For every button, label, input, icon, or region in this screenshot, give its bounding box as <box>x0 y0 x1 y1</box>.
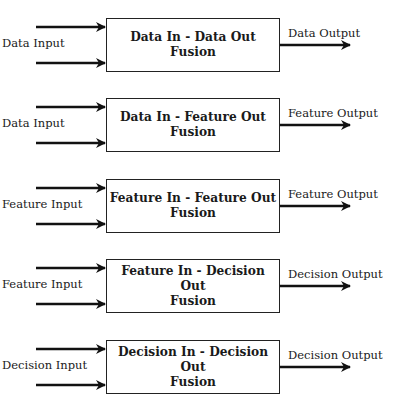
fusion-box: Decision In - Decision Out Fusion <box>106 340 280 394</box>
fusion-title-line1: Feature In - Feature Out <box>110 191 276 206</box>
output-label: Feature Output <box>288 106 378 120</box>
fusion-title-line1: Feature In - Decision Out <box>107 264 279 294</box>
fusion-box: Data In - Data Out Fusion <box>106 18 280 72</box>
fusion-title-line1: Data In - Feature Out <box>120 110 266 125</box>
fusion-title-line2: Fusion <box>170 125 216 140</box>
fusion-box: Feature In - Decision Out Fusion <box>106 259 280 313</box>
output-label: Decision Output <box>288 267 383 281</box>
fusion-title-line2: Fusion <box>170 375 216 390</box>
input-label: Feature Input <box>2 197 102 211</box>
fusion-title-line2: Fusion <box>170 294 216 309</box>
output-label: Feature Output <box>288 187 378 201</box>
fusion-row-feature-feature: Feature Input Feature In - Feature Out F… <box>0 179 394 235</box>
fusion-row-data-data: Data Input Data In - Data Out Fusion Dat… <box>0 18 394 74</box>
fusion-title-line2: Fusion <box>170 206 216 221</box>
fusion-row-decision-decision: Decision Input Decision In - Decision Ou… <box>0 340 394 396</box>
input-label: Data Input <box>2 36 102 50</box>
fusion-title-line1: Data In - Data Out <box>130 30 256 45</box>
fusion-title-line2: Fusion <box>170 45 216 60</box>
fusion-box: Feature In - Feature Out Fusion <box>106 179 280 233</box>
fusion-box: Data In - Feature Out Fusion <box>106 98 280 152</box>
fusion-row-feature-decision: Feature Input Feature In - Decision Out … <box>0 259 394 315</box>
output-label: Data Output <box>288 26 360 40</box>
input-label: Feature Input <box>2 277 102 291</box>
output-label: Decision Output <box>288 348 383 362</box>
fusion-row-data-feature: Data Input Data In - Feature Out Fusion … <box>0 98 394 154</box>
input-label: Decision Input <box>2 358 102 372</box>
input-label: Data Input <box>2 116 102 130</box>
fusion-title-line1: Decision In - Decision Out <box>107 345 279 375</box>
